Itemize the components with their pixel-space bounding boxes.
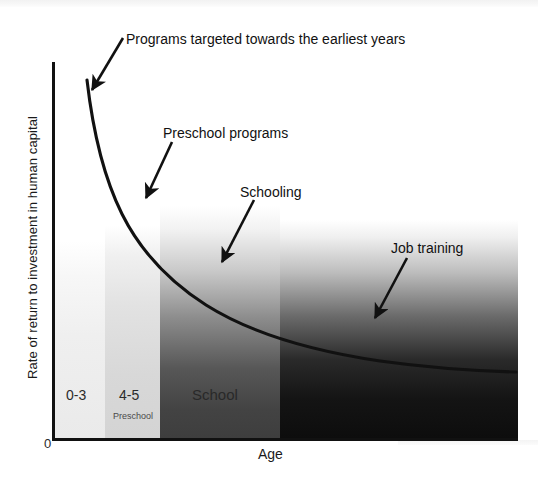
leader-line-preschool	[146, 142, 172, 198]
leader-line-schooling	[222, 200, 254, 262]
annotation-schooling: Schooling	[240, 184, 302, 200]
leader-line-job-training	[375, 258, 407, 318]
rate-of-return-curve	[87, 80, 516, 372]
annotation-preschool-programs: Preschool programs	[163, 125, 288, 141]
heckman-curve-figure: 0-3 4-5 Preschool School Rate of return …	[0, 0, 538, 482]
annotation-programs-earliest-years: Programs targeted towards the earliest y…	[126, 31, 405, 47]
annotation-job-training: Job training	[391, 240, 463, 256]
leader-line-programs	[92, 38, 123, 90]
